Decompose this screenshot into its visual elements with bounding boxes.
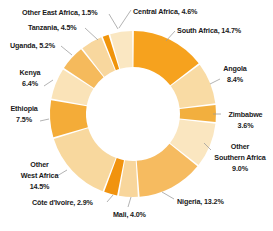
- label-line: Nigeria, 13.2%: [177, 196, 247, 207]
- label-line: Angola: [210, 63, 260, 74]
- label-uganda: Uganda, 5.2%: [10, 40, 62, 51]
- label-line: Central Africa, 4.6%: [133, 6, 209, 17]
- label-kenya: Kenya6.4%: [11, 67, 49, 89]
- label-mali: Mali, 4.0%: [113, 209, 158, 220]
- label-south-africa: South Africa, 14.7%: [177, 25, 257, 36]
- donut-chart-figure: South Africa, 14.7%Angola8.4%Zimbabwe3.6…: [0, 0, 273, 231]
- label-line: Uganda, 5.2%: [10, 40, 62, 51]
- leader-line-tanzania: [85, 28, 98, 40]
- label-line: 14.5%: [14, 181, 65, 192]
- label-line: 8.4%: [210, 74, 260, 85]
- label-other-southern-africa: OtherSouthern Africa9.0%: [209, 141, 271, 174]
- label-line: 7.5%: [5, 114, 43, 125]
- label-line: Côte d'Ivoire, 2.9%: [32, 197, 108, 208]
- label-c-te-d-ivoire: Côte d'Ivoire, 2.9%: [32, 197, 108, 208]
- label-other-west-africa: OtherWest Africa14.5%: [14, 159, 65, 192]
- label-line: Other East Africa, 1.5%: [22, 7, 110, 18]
- label-tanzania: Tanzania, 4.5%: [28, 22, 84, 33]
- leader-line-south-africa: [166, 31, 175, 41]
- label-line: South Africa, 14.7%: [177, 25, 257, 36]
- label-other-east-africa: Other East Africa, 1.5%: [22, 7, 110, 18]
- leader-line-mali: [128, 197, 131, 207]
- label-line: Ethiopia: [5, 103, 43, 114]
- label-angola: Angola8.4%: [210, 63, 260, 85]
- label-central-africa: Central Africa, 4.6%: [133, 6, 209, 17]
- label-line: Kenya: [11, 67, 49, 78]
- label-line: 6.4%: [11, 78, 49, 89]
- leader-line-uganda: [61, 46, 72, 55]
- label-line: Other: [14, 159, 65, 170]
- label-nigeria: Nigeria, 13.2%: [177, 196, 247, 207]
- label-line: Zimbabwe: [222, 109, 269, 120]
- leader-line-central-africa: [119, 10, 131, 28]
- label-line: 9.0%: [209, 163, 271, 174]
- label-line: 3.6%: [222, 120, 269, 131]
- label-line: West Africa: [14, 170, 65, 181]
- leader-line-other-east-africa: [109, 14, 118, 29]
- label-zimbabwe: Zimbabwe3.6%: [222, 109, 269, 131]
- label-ethiopia: Ethiopia7.5%: [5, 103, 43, 125]
- label-line: Southern Africa: [209, 152, 271, 163]
- wedge-zimbabwe: [180, 105, 216, 122]
- label-line: Other: [209, 141, 271, 152]
- label-line: Mali, 4.0%: [113, 209, 158, 220]
- leader-line-nigeria: [162, 192, 174, 199]
- label-line: Tanzania, 4.5%: [28, 22, 84, 33]
